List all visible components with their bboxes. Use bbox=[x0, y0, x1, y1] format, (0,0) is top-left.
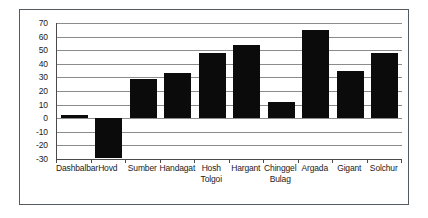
x-category-label-line: Gigant bbox=[332, 163, 367, 174]
y-tick-label: 40 bbox=[39, 59, 48, 69]
bar[interactable] bbox=[199, 53, 226, 118]
bar-slot bbox=[57, 23, 92, 159]
x-category-label: Handagat bbox=[160, 163, 195, 174]
bar-series bbox=[57, 23, 402, 159]
bar[interactable] bbox=[61, 115, 88, 118]
y-tick-label: 50 bbox=[39, 45, 48, 55]
bar-slot bbox=[230, 23, 265, 159]
x-category-label-line: Hargant bbox=[229, 163, 264, 174]
chart-figure: 706050403020100-10-20-30 DashbalbarHovdS… bbox=[19, 9, 409, 205]
x-category-label-line: Dashbalbar bbox=[56, 163, 91, 174]
x-category-label-line: Handagat bbox=[160, 163, 195, 174]
x-category-label-line: Solchur bbox=[367, 163, 402, 174]
bar[interactable] bbox=[95, 118, 122, 157]
y-tick-label: 20 bbox=[39, 86, 48, 96]
bar[interactable] bbox=[130, 79, 157, 118]
bar-slot bbox=[299, 23, 334, 159]
chart-plot-wrapper: 706050403020100-10-20-30 DashbalbarHovdS… bbox=[20, 10, 408, 204]
bar[interactable] bbox=[302, 30, 329, 118]
bar-slot bbox=[368, 23, 403, 159]
x-category-label: Hovd bbox=[91, 163, 126, 174]
x-axis-category-labels: DashbalbarHovdSumberHandagatHoshTolgoiHa… bbox=[56, 163, 401, 197]
y-axis-tick-labels: 706050403020100-10-20-30 bbox=[20, 23, 51, 159]
x-category-label: Dashbalbar bbox=[56, 163, 91, 174]
y-tick-label: -10 bbox=[36, 127, 48, 137]
y-tick-label: 10 bbox=[39, 100, 48, 110]
x-category-label: Hargant bbox=[229, 163, 264, 174]
x-category-label: Solchur bbox=[367, 163, 402, 174]
x-category-label-line: Hosh bbox=[194, 163, 229, 174]
y-tick-label: 70 bbox=[39, 18, 48, 28]
y-tick-label: -20 bbox=[36, 140, 48, 150]
x-tick bbox=[401, 159, 402, 163]
bar[interactable] bbox=[233, 45, 260, 118]
bar-slot bbox=[161, 23, 196, 159]
x-category-label-line: Hovd bbox=[91, 163, 126, 174]
x-category-label: Sumber bbox=[125, 163, 160, 174]
x-category-label-line: Sumber bbox=[125, 163, 160, 174]
y-tick-label: 30 bbox=[39, 72, 48, 82]
x-category-label-line: Bulag bbox=[263, 174, 298, 185]
bar-slot bbox=[264, 23, 299, 159]
bar-slot bbox=[333, 23, 368, 159]
x-category-label-line: Argada bbox=[298, 163, 333, 174]
bar-slot bbox=[92, 23, 127, 159]
x-category-label: Gigant bbox=[332, 163, 367, 174]
y-tick-label: 0 bbox=[43, 113, 48, 123]
y-tick-label: 60 bbox=[39, 32, 48, 42]
bar-slot bbox=[195, 23, 230, 159]
x-category-label-line: Chinggel bbox=[263, 163, 298, 174]
x-category-label-line: Tolgoi bbox=[194, 174, 229, 185]
bar[interactable] bbox=[164, 73, 191, 118]
x-category-label: Argada bbox=[298, 163, 333, 174]
bar[interactable] bbox=[371, 53, 398, 118]
bar[interactable] bbox=[337, 71, 364, 119]
y-tick-label: -30 bbox=[36, 154, 48, 164]
x-category-label: ChinggelBulag bbox=[263, 163, 298, 184]
bar-slot bbox=[126, 23, 161, 159]
x-category-label: HoshTolgoi bbox=[194, 163, 229, 184]
plot-area bbox=[56, 23, 402, 159]
bar[interactable] bbox=[268, 102, 295, 118]
